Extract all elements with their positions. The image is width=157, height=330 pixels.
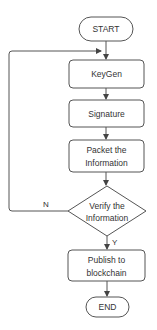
signature-node: Signature (69, 100, 144, 127)
keygen-label: KeyGen (91, 69, 122, 79)
publish-label-line2: blockchain (86, 268, 126, 278)
start-node: START (79, 17, 133, 41)
publish-node: Publish to blockchain (68, 250, 145, 281)
packet-node: Packet the Information (69, 140, 144, 172)
end-node: END (86, 297, 129, 317)
yes-label: Y (112, 238, 118, 247)
packet-label-line1: Packet the (86, 145, 126, 155)
keygen-node: KeyGen (69, 60, 144, 88)
flowchart: START KeyGen Signature Packet the Inform… (0, 0, 157, 330)
verify-label-line1: Verify the (89, 201, 125, 211)
end-label: END (99, 302, 117, 312)
packet-label-line2: Information (85, 158, 128, 168)
verify-label-line2: Information (86, 213, 129, 223)
verify-decision-node: Verify the Information (68, 186, 146, 236)
start-label: START (92, 24, 119, 34)
publish-label-line1: Publish to (88, 255, 126, 265)
no-label: N (43, 200, 49, 209)
signature-label: Signature (88, 109, 125, 119)
